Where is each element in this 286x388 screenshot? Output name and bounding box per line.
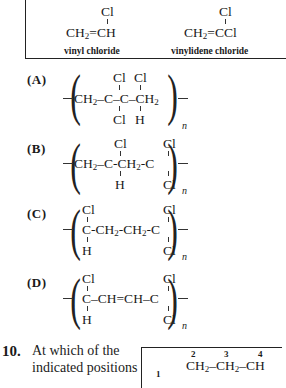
monomer-1-substituent: Cl <box>101 5 114 19</box>
substituent: Cl <box>163 178 176 192</box>
chain-end <box>178 163 188 164</box>
bond <box>168 151 169 156</box>
option-c-label[interactable]: (C) <box>27 206 47 222</box>
polymer-chain: C–CH=CH–C <box>82 292 159 306</box>
bond <box>140 85 141 90</box>
option-a-label[interactable]: (A) <box>27 72 47 88</box>
structure-chain: CH2–CH2–CH <box>186 359 265 374</box>
substituent: Cl <box>134 71 147 85</box>
monomer-2-formula: CH2=CCl <box>184 26 237 41</box>
position-1: 1 <box>156 370 161 379</box>
repeat-n: n <box>182 185 187 196</box>
question-number: 10. <box>2 343 21 360</box>
monomer-2-caption: vinylidene chloride <box>171 46 248 56</box>
polymer-chain: CH2–C–C–CH2 <box>74 92 159 107</box>
bond <box>140 106 141 111</box>
substituent: Cl <box>163 137 176 151</box>
substituent: H <box>135 113 145 127</box>
open-bracket: ( <box>70 270 81 328</box>
chain-end <box>63 98 73 99</box>
substituent: H <box>82 313 92 327</box>
bond <box>87 237 88 242</box>
substituent: Cl <box>82 272 95 286</box>
substituent: Cl <box>113 71 126 85</box>
open-bracket: ( <box>70 201 81 259</box>
bond <box>87 306 88 311</box>
monomer-2-substituent: Cl <box>219 5 232 19</box>
chain-end <box>63 229 73 230</box>
bond <box>120 171 121 176</box>
chain-end <box>178 298 188 299</box>
repeat-n: n <box>182 120 187 131</box>
monomer-1-formula: CH2=CH <box>66 26 116 41</box>
option-b-label[interactable]: (B) <box>27 141 46 157</box>
substituent: Cl <box>163 313 176 327</box>
repeat-n: n <box>182 251 187 262</box>
substituent: H <box>115 178 125 192</box>
bond <box>168 306 169 311</box>
bond <box>168 171 169 176</box>
bond <box>119 85 120 90</box>
substituent: Cl <box>163 203 176 217</box>
question-line-2: indicated positions <box>32 359 137 376</box>
polymer-chain: C-CH2-CH2-C <box>82 223 160 238</box>
close-bracket: ) <box>167 66 178 124</box>
polymer-chain: CH2–C-CH2-C <box>74 157 154 172</box>
substituent: Cl <box>82 203 95 217</box>
repeat-n: n <box>182 320 187 331</box>
bond <box>119 106 120 111</box>
chain-end <box>63 163 73 164</box>
bond <box>168 286 169 291</box>
bond <box>168 217 169 222</box>
substituent: Cl <box>163 244 176 258</box>
chain-end <box>63 298 73 299</box>
chain-end <box>178 98 188 99</box>
bond <box>107 19 108 24</box>
monomer-1-caption: vinyl chloride <box>64 46 120 56</box>
bond <box>168 237 169 242</box>
bond <box>225 19 226 24</box>
chain-end <box>178 229 188 230</box>
substituent: Cl <box>163 272 176 286</box>
substituent: Cl <box>113 113 126 127</box>
question-line-1: At which of the <box>32 342 119 359</box>
substituent: H <box>82 244 92 258</box>
substituent: Cl <box>114 137 127 151</box>
option-d-label[interactable]: (D) <box>27 275 47 291</box>
